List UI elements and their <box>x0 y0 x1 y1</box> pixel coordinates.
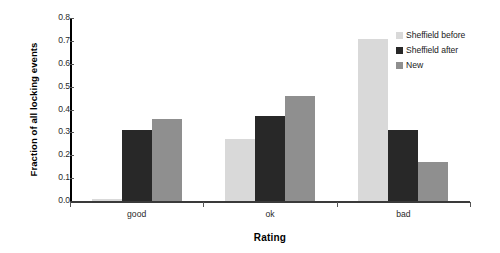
bar <box>152 119 182 201</box>
legend-item[interactable]: Sheffield after <box>396 43 465 57</box>
x-axis-category-label: ok <box>230 209 310 219</box>
y-axis-tick-label: 0.1 <box>36 172 70 182</box>
y-axis-tick-label: 0.6 <box>36 58 70 68</box>
y-axis-tick-label: 0.0 <box>36 195 70 205</box>
x-axis-tick-mark <box>337 202 338 207</box>
x-axis-tick-mark <box>70 202 71 207</box>
legend-swatch-icon <box>396 62 403 69</box>
bar <box>388 130 418 201</box>
x-axis-category-label: good <box>97 209 177 219</box>
legend-swatch-icon <box>396 32 403 39</box>
x-axis-title: Rating <box>70 232 470 243</box>
bar <box>225 139 255 201</box>
legend-swatch-icon <box>396 47 403 54</box>
x-axis-category-label: bad <box>363 209 443 219</box>
y-axis-tick-label: 0.3 <box>36 126 70 136</box>
legend-item-label: Sheffield before <box>406 30 465 40</box>
bar <box>358 39 388 201</box>
y-axis-tick-label: 0.2 <box>36 149 70 159</box>
x-axis-tick-mark <box>470 202 471 207</box>
bar <box>285 96 315 201</box>
bar-chart: Fraction of all locking events 0.00.10.2… <box>0 0 500 253</box>
y-axis-tick-label: 0.7 <box>36 35 70 45</box>
x-axis-line <box>70 201 470 203</box>
x-axis-tick-mark <box>203 202 204 207</box>
bar <box>418 162 448 201</box>
legend-item-label: Sheffield after <box>406 45 458 55</box>
bar <box>255 116 285 201</box>
legend-item[interactable]: New <box>396 58 465 72</box>
legend-item[interactable]: Sheffield before <box>396 28 465 42</box>
legend-item-label: New <box>406 60 423 70</box>
chart-legend: Sheffield beforeSheffield afterNew <box>396 28 465 73</box>
y-axis-tick-label: 0.5 <box>36 81 70 91</box>
y-axis-tick-label: 0.4 <box>36 104 70 114</box>
bar <box>122 130 152 201</box>
y-axis-tick-label: 0.8 <box>36 12 70 22</box>
